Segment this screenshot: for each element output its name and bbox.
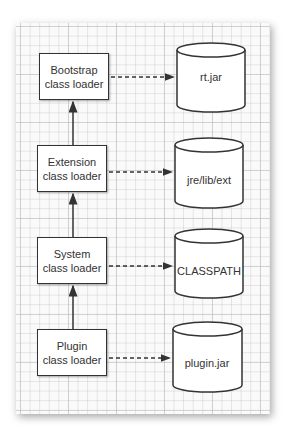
source-label-jre-lib-ext: jre/lib/ext xyxy=(174,174,244,186)
loader-name: Plugin xyxy=(57,340,88,352)
loader-suffix: class loader xyxy=(43,170,102,182)
loader-suffix: class loader xyxy=(45,78,104,90)
cylinder-jre-lib-ext xyxy=(175,138,243,208)
loader-suffix: class loader xyxy=(43,354,102,366)
loader-name: Extension xyxy=(48,156,96,168)
source-label-classpath: CLASSPATH xyxy=(174,265,244,277)
extension-loader-box: Extensionclass loader xyxy=(37,145,107,192)
plugin-loader-box: Pluginclass loader xyxy=(37,329,107,376)
loader-name: System xyxy=(54,248,91,260)
loader-name: Bootstrap xyxy=(50,64,97,76)
source-label-rt-jar: rt.jar xyxy=(176,71,246,83)
source-label-plugin-jar: plugin.jar xyxy=(172,357,242,369)
bootstrap-loader-box: Bootstrapclass loader xyxy=(39,53,109,100)
system-loader-box: Systemclass loader xyxy=(37,237,107,284)
cylinder-classpath xyxy=(175,229,243,298)
loader-suffix: class loader xyxy=(43,262,102,274)
